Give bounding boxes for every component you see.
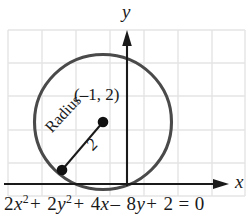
equation-operator-2: + — [72, 193, 85, 214]
circle-equation-figure: y x (–1, 2) Radius 2 2x2+ 2y2+ 4x– 8y+ 2… — [0, 0, 252, 222]
equation-operator-1: + — [29, 193, 42, 214]
graph-canvas — [0, 0, 252, 222]
equation-term-4-coeff: 8 — [126, 193, 136, 214]
equation-term-5: 2 — [164, 193, 174, 214]
circle-equation: 2x2+ 2y2+ 4x– 8y+ 2 = 0 — [4, 193, 205, 215]
equation-operator-4: + — [145, 193, 158, 214]
equation-equals-sign: = — [179, 193, 190, 214]
radius-endpoint-marker — [57, 165, 68, 176]
equation-term-4-var: y — [136, 193, 145, 214]
equation-operator-3: – — [109, 193, 121, 214]
axis-label-y: y — [122, 2, 130, 21]
equation-term-1-coeff: 2 — [4, 193, 14, 214]
equation-term-1-var: x — [14, 193, 23, 214]
equation-term-3-coeff: 4 — [91, 193, 101, 214]
axis-label-x: x — [235, 172, 243, 191]
equation-term-2-coeff: 2 — [47, 193, 57, 214]
center-point-marker — [98, 117, 109, 128]
equation-term-2-var: y — [57, 193, 66, 214]
equation-right-hand-side: 0 — [195, 193, 205, 214]
